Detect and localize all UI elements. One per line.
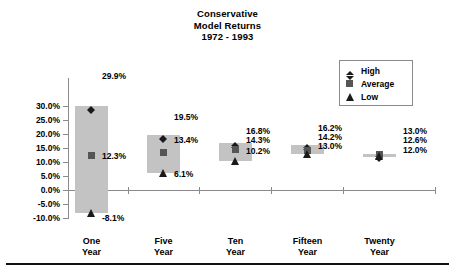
x-axis-tick — [435, 187, 436, 194]
y-axis-tick — [63, 134, 69, 135]
y-axis-tick-label: 30.0% — [16, 102, 60, 111]
y-axis-tick-label: 20.0% — [16, 130, 60, 139]
y-axis-tick-label: 5.0% — [16, 172, 60, 181]
low-marker-triangle — [303, 150, 311, 158]
x-axis-tick — [199, 187, 200, 194]
average-marker-square — [232, 146, 239, 153]
y-axis-tick — [63, 106, 69, 107]
y-axis-tick — [63, 162, 69, 163]
y-axis-tick-label: -5.0% — [16, 200, 60, 209]
y-axis-tick-label: 15.0% — [16, 144, 60, 153]
low-marker-triangle — [159, 169, 167, 177]
y-axis-tick-label: 0.0% — [16, 186, 60, 195]
low-marker-triangle — [375, 152, 383, 160]
y-axis-tick-label: 25.0% — [16, 116, 60, 125]
chart-plot-area: 30.0%25.0%20.0%15.0%10.0%5.0%0.0%-5.0%-1… — [0, 0, 455, 279]
legend-item-label: High — [361, 66, 380, 76]
category-label-line: One — [57, 236, 127, 247]
value-label-average: 12.6% — [403, 136, 427, 145]
high-marker-diamond — [87, 102, 95, 110]
x-axis-zero-line — [68, 190, 436, 191]
value-label-average: 12.3% — [102, 152, 126, 161]
x-axis-tick — [128, 187, 129, 194]
diamond-icon — [346, 67, 354, 75]
high-marker-diamond — [231, 138, 239, 146]
value-label-low: -8.1% — [102, 214, 124, 223]
x-axis-tick — [343, 187, 344, 194]
category-label-line: Year — [129, 247, 199, 258]
category-label: TenYear — [201, 236, 271, 258]
value-label-low: 6.1% — [174, 170, 193, 179]
low-marker-triangle — [231, 157, 239, 165]
y-axis-tick-label: 10.0% — [16, 158, 60, 167]
value-label-high: 29.9% — [102, 72, 126, 81]
average-marker-square — [160, 149, 167, 156]
bottom-divider-rule — [6, 263, 449, 265]
value-label-low: 12.0% — [403, 146, 427, 155]
category-label: FifteenYear — [273, 236, 343, 258]
y-axis-tick-label: -10.0% — [16, 214, 60, 223]
y-axis-tick — [63, 176, 69, 177]
x-axis-tick — [271, 187, 272, 194]
category-label: FiveYear — [129, 236, 199, 258]
value-label-low: 13.0% — [318, 142, 342, 151]
category-label-line: Ten — [201, 236, 271, 247]
y-axis-tick — [63, 120, 69, 121]
low-marker-triangle — [87, 209, 95, 217]
category-label: TwentyYear — [345, 236, 415, 258]
high-marker-diamond — [159, 131, 167, 139]
y-axis-tick — [63, 204, 69, 205]
category-label-line: Year — [345, 247, 415, 258]
y-axis-tick — [63, 148, 69, 149]
value-label-average: 13.4% — [174, 136, 198, 145]
value-label-low: 10.2% — [246, 147, 270, 156]
category-label-line: Fifteen — [273, 236, 343, 247]
y-axis-tick — [63, 218, 69, 219]
chart-legend: HighAverageLow — [339, 60, 413, 106]
average-marker-square — [88, 152, 95, 159]
value-label-high: 19.5% — [174, 113, 198, 122]
legend-item-label: Low — [361, 92, 378, 102]
square-icon — [346, 80, 353, 87]
y-axis-tick — [63, 190, 69, 191]
value-label-average: 14.3% — [246, 136, 270, 145]
category-label-line: Twenty — [345, 236, 415, 247]
category-label-line: Year — [273, 247, 343, 258]
category-label-line: Five — [129, 236, 199, 247]
category-label-line: Year — [57, 247, 127, 258]
legend-item-label: Average — [361, 79, 394, 89]
category-label-line: Year — [201, 247, 271, 258]
category-label: OneYear — [57, 236, 127, 258]
triangle-icon — [346, 93, 354, 101]
